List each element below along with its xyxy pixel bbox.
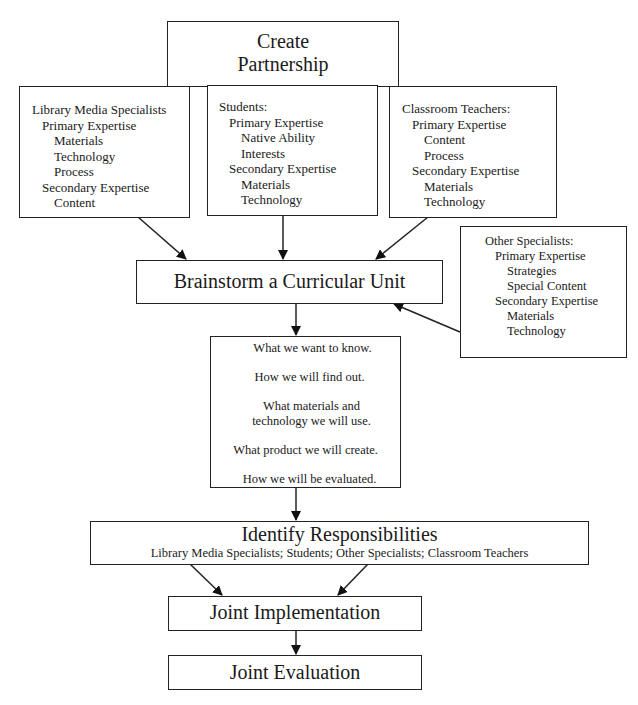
teachers-secondary-item: Materials — [402, 179, 519, 195]
other-primary-item: Strategies — [485, 264, 598, 279]
create-partnership-line2: Partnership — [168, 53, 398, 76]
brainstorm-box: Brainstorm a Curricular Unit — [136, 260, 443, 304]
identify-subtitle: Library Media Specialists; Students; Oth… — [91, 546, 588, 561]
lms-secondary-item: Content — [32, 195, 166, 211]
planning-questions-box: What we want to know. How we will find o… — [210, 336, 401, 488]
other-secondary-item: Materials — [485, 309, 598, 324]
lms-secondary-label: Secondary Expertise — [32, 180, 166, 196]
question-materials-2: technology we will use. — [223, 414, 400, 429]
question-find-out: How we will find out. — [211, 370, 400, 385]
teachers-secondary-label: Secondary Expertise — [402, 163, 519, 179]
students-secondary-label: Secondary Expertise — [219, 161, 336, 177]
students-secondary-item: Technology — [219, 192, 336, 208]
identify-title: Identify Responsibilities — [91, 523, 588, 545]
students-primary-label: Primary Expertise — [219, 115, 336, 131]
lms-title: Library Media Specialists — [32, 102, 166, 118]
question-materials-1: What materials and — [223, 399, 400, 414]
other-specialists-box: Other Specialists: Primary Expertise Str… — [460, 226, 627, 358]
library-media-specialists-box: Library Media Specialists Primary Expert… — [19, 86, 190, 218]
students-box: Students: Primary Expertise Native Abili… — [207, 85, 378, 216]
lms-primary-item: Technology — [32, 149, 166, 165]
students-secondary-item: Materials — [219, 177, 336, 193]
other-secondary-item: Technology — [485, 324, 598, 339]
teachers-primary-label: Primary Expertise — [402, 117, 519, 133]
question-product: What product we will create. — [211, 443, 400, 458]
students-primary-item: Native Ability — [219, 130, 336, 146]
brainstorm-label: Brainstorm a Curricular Unit — [137, 270, 442, 293]
identify-responsibilities-box: Identify Responsibilities Library Media … — [90, 521, 589, 565]
joint-evaluation-box: Joint Evaluation — [168, 655, 422, 690]
teachers-primary-item: Process — [402, 148, 519, 164]
teachers-secondary-item: Technology — [402, 194, 519, 210]
create-partnership-line1: Create — [168, 30, 398, 53]
create-partnership-box: Create Partnership — [167, 21, 399, 87]
other-secondary-label: Secondary Expertise — [485, 294, 598, 309]
joint-implementation-label: Joint Implementation — [169, 601, 421, 624]
classroom-teachers-box: Classroom Teachers: Primary Expertise Co… — [389, 86, 557, 218]
question-evaluated: How we will be evaluated. — [211, 472, 400, 487]
other-primary-label: Primary Expertise — [485, 249, 598, 264]
question-know: What we want to know. — [211, 341, 400, 356]
students-title: Students: — [219, 99, 336, 115]
other-primary-item: Special Content — [485, 279, 598, 294]
teachers-title: Classroom Teachers: — [402, 101, 519, 117]
students-primary-item: Interests — [219, 146, 336, 162]
lms-primary-item: Materials — [32, 133, 166, 149]
joint-implementation-box: Joint Implementation — [168, 596, 422, 631]
other-title: Other Specialists: — [485, 234, 598, 249]
joint-evaluation-label: Joint Evaluation — [169, 661, 421, 684]
teachers-primary-item: Content — [402, 132, 519, 148]
lms-primary-label: Primary Expertise — [32, 118, 166, 134]
lms-primary-item: Process — [32, 164, 166, 180]
